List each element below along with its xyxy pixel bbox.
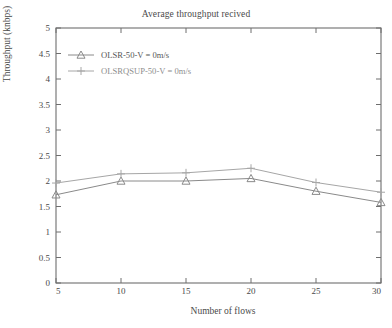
y-tick-label: 2.5: [39, 151, 51, 161]
y-axis-ticks: 00.511.522.533.544.55: [39, 23, 381, 288]
series-2: [52, 164, 385, 196]
x-tick-label: 15: [182, 286, 192, 296]
y-tick-label: 0: [46, 278, 51, 288]
y-tick-label: 4.5: [39, 49, 51, 59]
y-tick-label: 1.5: [39, 202, 51, 212]
y-tick-label: 3: [46, 125, 51, 135]
series-1: [52, 174, 385, 205]
x-tick-label: 5: [56, 286, 61, 296]
x-tick-label: 30: [372, 286, 382, 296]
chart-legend: OLSR-50-V = 0m/sOLSRQSUP-50-V = 0m/s: [68, 50, 192, 76]
series-line: [56, 168, 381, 192]
y-tick-label: 2: [46, 176, 51, 186]
chart-figure: Average throughput recived Throughput (k…: [0, 0, 392, 328]
x-tick-label: 25: [312, 286, 322, 296]
x-tick-label: 10: [117, 286, 127, 296]
legend-label-2: OLSRQSUP-50-V = 0m/s: [101, 66, 192, 76]
plot-area: 00.511.522.533.544.5551015202530OLSR-50-…: [0, 0, 392, 328]
x-tick-label: 20: [247, 286, 257, 296]
y-tick-label: 5: [46, 23, 51, 33]
series-line: [56, 178, 381, 202]
y-tick-label: 4: [46, 74, 51, 84]
y-tick-label: 3.5: [39, 100, 51, 110]
legend-label-1: OLSR-50-V = 0m/s: [101, 50, 170, 60]
y-tick-label: 1: [46, 227, 51, 237]
y-tick-label: 0.5: [39, 253, 51, 263]
